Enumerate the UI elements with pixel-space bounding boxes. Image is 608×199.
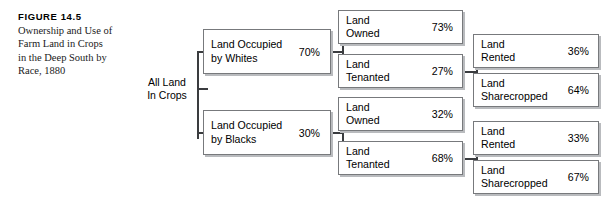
node-label: Land Rented [481,38,563,64]
node-label: Land Owned [346,101,427,127]
node-label: Land Sharecropped [481,77,563,103]
figure-container: FIGURE 14.5 Ownership and Use of Farm La… [0,0,608,199]
node-value: 73% [427,21,455,33]
node-blacks-land-owned: Land Owned 32% [338,97,463,131]
connector-root-stem [198,88,208,90]
figure-caption-text: Ownership and Use of Farm Land in Crops … [18,24,158,78]
node-label-line-2: by Blacks [211,133,294,146]
node-label-line-2: Rented [481,138,563,151]
node-label: Land Sharecropped [481,164,563,190]
node-value: 68% [427,152,455,164]
node-whites-land-rented: Land Rented 36% [473,34,599,68]
node-label: Land Tenanted [346,58,427,84]
node-blacks-land-tenanted: Land Tenanted 68% [338,141,463,175]
node-label-line-1: Land Occupied [211,119,294,132]
node-value: 32% [427,108,455,120]
root-node-label: All Land In Crops [136,76,198,102]
node-label-line-2: Owned [346,27,427,40]
node-value: 70% [294,46,323,58]
node-label-line-1: Land [481,164,563,177]
node-whites-land-owned: Land Owned 73% [338,10,463,44]
node-label-line-1: Land [346,145,427,158]
root-label-line-1: All Land [136,76,198,89]
node-land-occupied-by-blacks: Land Occupied by Blacks 30% [203,110,331,155]
connector-root-spine [197,51,199,139]
root-label-line-2: In Crops [136,89,198,102]
node-label-line-1: Land [346,14,427,27]
node-label: Land Occupied by Blacks [211,119,294,145]
figure-caption: FIGURE 14.5 Ownership and Use of Farm La… [18,10,158,78]
node-label-line-2: by Whites [211,52,294,65]
node-label: Land Tenanted [346,145,427,171]
node-label-line-1: Land [346,58,427,71]
node-label: Land Owned [346,14,427,40]
node-label-line-2: Rented [481,51,563,64]
node-label-line-1: Land [481,77,563,90]
node-value: 30% [294,127,323,139]
node-label: Land Rented [481,125,563,151]
node-value: 27% [427,65,455,77]
node-label-line-2: Tenanted [346,158,427,171]
node-label-line-2: Sharecropped [481,177,563,190]
node-label: Land Occupied by Whites [211,38,294,64]
caption-line-3: in the Deep South by [18,51,158,64]
node-blacks-land-rented: Land Rented 33% [473,121,599,155]
node-label-line-1: Land Occupied [211,38,294,51]
node-label-line-2: Sharecropped [481,90,563,103]
figure-number: FIGURE 14.5 [18,10,158,23]
node-blacks-land-sharecropped: Land Sharecropped 67% [473,160,599,194]
node-value: 36% [563,45,591,57]
node-land-occupied-by-whites: Land Occupied by Whites 70% [203,29,331,74]
node-value: 33% [563,132,591,144]
node-whites-land-tenanted: Land Tenanted 27% [338,54,463,88]
node-value: 67% [563,171,591,183]
node-label-line-1: Land [346,101,427,114]
node-label-line-2: Tenanted [346,71,427,84]
node-whites-land-sharecropped: Land Sharecropped 64% [473,73,599,107]
caption-line-1: Ownership and Use of [18,24,158,37]
node-label-line-1: Land [481,125,563,138]
node-value: 64% [563,84,591,96]
node-label-line-1: Land [481,38,563,51]
caption-line-2: Farm Land in Crops [18,37,158,50]
node-label-line-2: Owned [346,114,427,127]
